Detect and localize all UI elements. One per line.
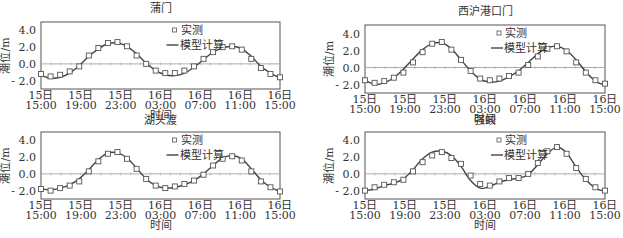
observed-marker [125, 44, 130, 49]
observed-marker [58, 72, 63, 77]
plot-frame [365, 25, 605, 93]
observed-marker [249, 169, 254, 174]
observed-marker [153, 183, 158, 188]
x-tick-time: 23:00 [429, 103, 461, 116]
y-axis-label: 潮位/m [0, 37, 12, 74]
observed-marker [468, 68, 473, 73]
observed-marker [182, 181, 187, 186]
x-tick-time: 15:00 [25, 99, 57, 112]
observed-marker [86, 169, 91, 174]
x-tick-time: 15:00 [25, 209, 57, 222]
observed-marker [96, 159, 101, 164]
legend-observed-label: 实测 [505, 26, 527, 40]
observed-marker [487, 78, 492, 83]
observed-marker [201, 56, 206, 61]
observed-marker [172, 71, 177, 76]
x-tick-time: 23:00 [105, 209, 137, 222]
observed-marker [449, 155, 454, 160]
x-tick-time: 11:00 [224, 99, 256, 112]
observed-marker [459, 57, 464, 62]
x-tick-time: 15:00 [349, 209, 381, 222]
observed-marker [430, 153, 435, 158]
observed-marker [526, 62, 531, 67]
observed-marker [144, 176, 149, 181]
y-tick-label: 2.0 [19, 151, 37, 164]
x-tick-time: 07:00 [184, 99, 216, 112]
legend-model-label: 模型计算 [504, 148, 548, 162]
observed-marker [182, 68, 187, 73]
observed-marker [39, 71, 44, 76]
y-tick-label: 0.0 [343, 168, 361, 181]
observed-marker [459, 161, 464, 166]
observed-marker [258, 66, 263, 71]
charts-canvas: 蒲门4.02.00.0- 2.0潮位/m15日15:0015日19:0015日2… [0, 0, 623, 238]
y-tick-label: - 2.0 [11, 185, 36, 198]
observed-marker [115, 150, 120, 155]
legend-observed-label: 实测 [505, 133, 527, 147]
plot-frame [41, 22, 280, 89]
observed-marker [268, 185, 273, 190]
observed-marker [593, 185, 598, 190]
observed-marker [391, 180, 396, 185]
observed-marker [516, 176, 521, 181]
legend-observed-label: 实测 [181, 23, 203, 37]
x-tick-time: 15:00 [264, 209, 296, 222]
panel-xihu-gangkou: 西沪港口门4.02.00.0- 2.0潮位/m15日15:0015日19:001… [322, 4, 621, 126]
observed-marker [439, 40, 444, 45]
observed-marker [401, 177, 406, 182]
y-tick-label: - 2.0 [335, 79, 360, 92]
observed-marker [487, 183, 492, 188]
x-tick-time: 11:00 [549, 103, 581, 116]
observed-marker [372, 80, 377, 85]
observed-marker [48, 188, 53, 193]
y-tick-label: - 2.0 [11, 75, 36, 88]
observed-marker [77, 179, 82, 184]
observed-marker [144, 61, 149, 66]
y-axis-label: 潮位/m [0, 147, 12, 184]
observed-marker [115, 40, 120, 45]
observed-marker [401, 70, 406, 75]
y-tick-label: 0.0 [19, 168, 37, 181]
observed-marker [239, 158, 244, 163]
x-tick-time: 07:00 [509, 103, 541, 116]
tide-comparison-figure: 蒲门4.02.00.0- 2.0潮位/m15日15:0015日19:0015日2… [0, 0, 623, 238]
chart-title: 蒲门 [150, 1, 172, 15]
y-axis-label: 潮位/m [322, 40, 336, 77]
observed-marker [516, 70, 521, 75]
y-tick-label: 2.0 [19, 41, 37, 54]
y-tick-label: 2.0 [343, 151, 361, 164]
observed-marker [430, 41, 435, 46]
legend-observed-marker [173, 138, 177, 142]
observed-marker [105, 151, 110, 156]
x-tick-time: 15:00 [589, 209, 621, 222]
x-tick-time: 11:00 [224, 209, 256, 222]
x-tick-time: 19:00 [389, 209, 421, 222]
observed-marker [96, 45, 101, 50]
y-axis-label: 潮位/m [322, 147, 336, 184]
y-tick-label: 4.0 [19, 134, 37, 147]
x-tick-time: 23:00 [105, 99, 137, 112]
observed-marker [278, 189, 283, 194]
observed-marker [603, 81, 608, 86]
observed-marker [172, 184, 177, 189]
observed-marker [468, 173, 473, 178]
x-tick-time: 07:00 [184, 209, 216, 222]
observed-marker [507, 176, 512, 181]
observed-marker [449, 47, 454, 52]
observed-marker [258, 179, 263, 184]
panel-qiangjiao: 强蛟4.02.00.0- 2.0潮位/m15日15:0015日19:0015日2… [322, 113, 621, 232]
observed-marker [555, 44, 560, 49]
observed-marker [48, 74, 53, 79]
observed-marker [163, 186, 168, 191]
observed-marker [420, 50, 425, 55]
observed-marker [77, 64, 82, 69]
observed-marker [249, 56, 254, 61]
observed-marker [268, 71, 273, 76]
y-tick-label: 4.0 [343, 134, 361, 147]
observed-marker [603, 188, 608, 193]
y-tick-label: 2.0 [343, 45, 361, 58]
y-tick-label: 4.0 [19, 24, 37, 37]
observed-marker [439, 150, 444, 155]
y-tick-label: - 2.0 [335, 185, 360, 198]
legend-observed-marker [173, 28, 177, 32]
